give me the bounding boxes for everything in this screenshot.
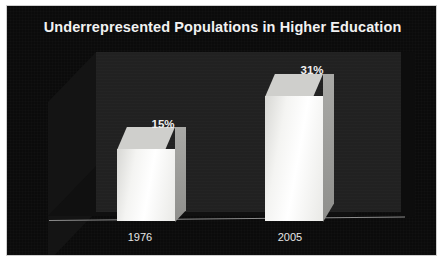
- plot-area-right-depth: [401, 52, 415, 217]
- bar-value-label-1976: 15%: [133, 118, 193, 130]
- bar-front-face: [117, 149, 175, 221]
- x-axis-category-label-2005: 2005: [260, 231, 320, 243]
- bar-side-face: [175, 127, 186, 222]
- bar-front-face: [265, 96, 323, 221]
- bar-value-label-2005: 31%: [282, 64, 342, 76]
- bar-side-face: [323, 74, 334, 222]
- bar-2005[interactable]: [265, 96, 323, 221]
- chart-title: Underrepresented Populations in Higher E…: [7, 19, 437, 35]
- x-axis-category-label-1976: 1976: [110, 231, 170, 243]
- bar-1976[interactable]: [117, 149, 175, 221]
- bar-top-face: [117, 127, 175, 150]
- bar-top-face: [265, 74, 323, 97]
- chart-frame: Underrepresented Populations in Higher E…: [6, 5, 437, 256]
- chart-screenshot: Underrepresented Populations in Higher E…: [0, 0, 443, 262]
